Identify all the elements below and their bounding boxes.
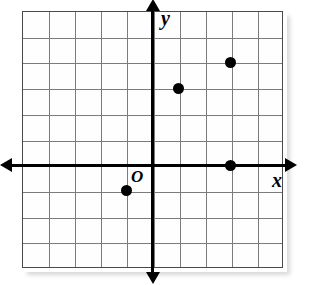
- grid-line-vertical: [180, 12, 181, 267]
- x-axis-arrow-right-icon: [285, 158, 297, 172]
- x-axis-arrow-left-icon: [0, 158, 12, 172]
- grid-line-vertical: [101, 12, 102, 267]
- grid-line-vertical: [258, 12, 259, 267]
- grid-line-vertical: [232, 12, 233, 267]
- data-point: [225, 160, 236, 171]
- y-axis-arrow-down-icon: [146, 272, 160, 284]
- y-axis-label: y: [161, 8, 170, 28]
- y-axis-arrow-up-icon: [146, 0, 160, 11]
- grid-line-vertical: [206, 12, 207, 267]
- origin-label: O: [131, 168, 143, 185]
- data-point: [173, 83, 184, 94]
- grid-line-vertical: [127, 12, 128, 267]
- y-axis-line: [151, 8, 154, 276]
- coordinate-plane-figure: y x O: [0, 0, 309, 285]
- grid-line-vertical: [49, 12, 50, 267]
- x-axis-label: x: [272, 170, 282, 190]
- grid-line-vertical: [75, 12, 76, 267]
- x-axis-line: [6, 164, 289, 167]
